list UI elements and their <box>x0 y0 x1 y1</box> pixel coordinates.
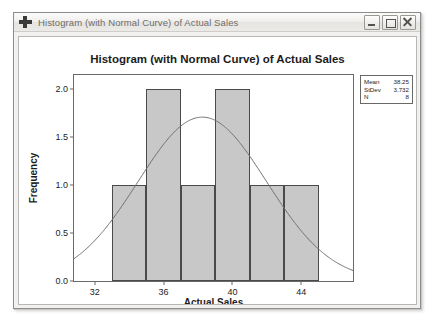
stat-label: N <box>364 93 368 101</box>
x-tick-label: 44 <box>296 281 306 297</box>
maximize-button[interactable] <box>382 15 398 30</box>
plot-area: 0.00.51.01.52.032364044 <box>73 74 354 282</box>
minimize-button[interactable] <box>364 15 380 30</box>
x-axis-label: Actual Sales <box>73 297 354 305</box>
y-tick-label: 2.0 <box>55 84 74 94</box>
stat-label: Mean <box>364 78 379 86</box>
stat-row: N8 <box>364 93 409 101</box>
x-tick-label: 32 <box>90 281 100 297</box>
stat-row: StDev3.732 <box>364 86 409 94</box>
window-title: Histogram (with Normal Curve) of Actual … <box>38 17 364 28</box>
window-controls <box>364 15 416 30</box>
stat-value: 38.25 <box>394 78 409 86</box>
y-tick-label: 1.5 <box>55 132 74 142</box>
stat-value: 8 <box>406 93 409 101</box>
normal-curve <box>74 75 353 281</box>
chart-title: Histogram (with Normal Curve) of Actual … <box>19 53 416 65</box>
window-titlebar: Histogram (with Normal Curve) of Actual … <box>14 13 420 32</box>
stat-value: 3.732 <box>394 86 409 94</box>
close-button[interactable] <box>400 15 416 30</box>
y-tick-label: 1.0 <box>55 180 74 190</box>
stat-label: StDev <box>364 86 381 94</box>
y-axis-label: Frequency <box>28 153 39 204</box>
graph-canvas: Histogram (with Normal Curve) of Actual … <box>18 36 417 305</box>
y-tick-label: 0.0 <box>55 276 74 286</box>
statistics-legend-box: Mean38.25StDev3.732N8 <box>360 75 413 104</box>
plus-cross-icon <box>18 14 34 30</box>
graph-window: Histogram (with Normal Curve) of Actual … <box>13 12 421 309</box>
x-tick-label: 40 <box>227 281 237 297</box>
y-tick-label: 0.5 <box>55 228 74 238</box>
stat-row: Mean38.25 <box>364 78 409 86</box>
x-tick-label: 36 <box>159 281 169 297</box>
